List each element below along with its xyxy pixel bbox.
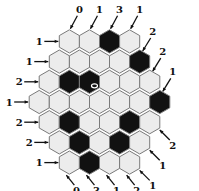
hex-cell-r3-c1[interactable] (49, 90, 69, 113)
arrowhead-icon (45, 141, 49, 144)
clue-top-2: 3 (116, 4, 123, 15)
hex-cell-r4-c3[interactable] (100, 111, 120, 134)
clue-left-5: 2 (26, 137, 33, 148)
hex-cell-r0-c1[interactable] (79, 30, 99, 53)
clue-left-4: 2 (16, 117, 23, 128)
hex-cell-r6-c0[interactable] (59, 151, 79, 174)
hex-cell-r4-c0[interactable] (39, 111, 59, 134)
arrowhead-icon (45, 60, 49, 63)
hex-cell-r5-c1[interactable] (69, 131, 89, 154)
clue-bottom-3: 2 (133, 185, 140, 191)
hex-grid (29, 30, 170, 174)
hex-cell-r4-c4[interactable] (120, 111, 140, 134)
clue-bottom-right-2: 1 (149, 180, 156, 191)
clue-top-right-0: 2 (149, 26, 156, 37)
clue-top-3: 1 (136, 4, 143, 15)
clue-bottom-2: 1 (113, 185, 120, 191)
hex-cell-r0-c0[interactable] (59, 30, 79, 53)
hex-puzzle-board: 112122101312212110312 (0, 0, 199, 191)
hex-cell-r2-c4[interactable] (120, 70, 140, 93)
clue-bottom-0: 0 (73, 185, 80, 191)
clue-left-3: 1 (6, 97, 13, 108)
arrowhead-icon (35, 80, 39, 83)
hex-cell-r6-c2[interactable] (100, 151, 120, 174)
hex-cell-r1-c0[interactable] (49, 50, 69, 73)
clue-bottom-1: 3 (93, 185, 100, 191)
hex-cell-r4-c1[interactable] (59, 111, 79, 134)
arrowhead-icon (55, 161, 59, 164)
hex-cell-r1-c3[interactable] (110, 50, 130, 73)
clue-left-0: 1 (36, 36, 43, 47)
hex-cell-r5-c3[interactable] (110, 131, 130, 154)
hex-cell-r6-c1[interactable] (79, 151, 99, 174)
hex-cell-r2-c0[interactable] (39, 70, 59, 93)
hex-cell-r5-c4[interactable] (130, 131, 150, 154)
hex-cell-r2-c2[interactable] (79, 70, 99, 93)
hex-cell-r3-c3[interactable] (90, 90, 110, 113)
hex-cell-r4-c5[interactable] (140, 111, 160, 134)
hex-cell-r2-c1[interactable] (59, 70, 79, 93)
hex-cell-r5-c0[interactable] (49, 131, 69, 154)
clue-left-2: 2 (16, 76, 23, 87)
clue-top-right-1: 2 (159, 46, 166, 57)
hex-cell-r1-c4[interactable] (130, 50, 150, 73)
arrowhead-icon (25, 100, 29, 103)
hex-cell-r1-c2[interactable] (90, 50, 110, 73)
hex-cell-r3-c0[interactable] (29, 90, 49, 113)
hex-cell-r4-c2[interactable] (79, 111, 99, 134)
hex-cell-r3-c6[interactable] (150, 90, 170, 113)
clue-top-1: 1 (96, 4, 103, 15)
clue-left-1: 1 (26, 56, 33, 67)
hex-cell-r3-c4[interactable] (110, 90, 130, 113)
hex-cell-r0-c3[interactable] (120, 30, 140, 53)
hex-cell-r3-c5[interactable] (130, 90, 150, 113)
hex-cell-r2-c5[interactable] (140, 70, 160, 93)
clue-bottom-right-0: 2 (169, 140, 176, 151)
arrowhead-icon (35, 121, 39, 124)
clue-bottom-right-1: 1 (159, 160, 166, 171)
hex-cell-r6-c3[interactable] (120, 151, 140, 174)
hex-cell-r0-c2[interactable] (100, 30, 120, 53)
hex-cell-r5-c2[interactable] (90, 131, 110, 154)
hex-cell-r2-c3[interactable] (100, 70, 120, 93)
hex-cell-r3-c2[interactable] (69, 90, 89, 113)
clue-top-right-2: 1 (169, 66, 176, 77)
arrowhead-icon (55, 40, 59, 43)
clue-left-6: 1 (36, 157, 43, 168)
clue-top-0: 0 (76, 4, 83, 15)
hex-cell-r1-c1[interactable] (69, 50, 89, 73)
